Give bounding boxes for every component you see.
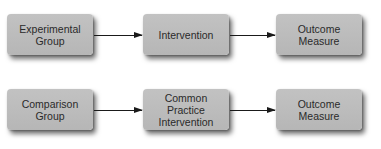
experimental-group-label: Experimental Group bbox=[19, 23, 80, 47]
intervention-box: Intervention bbox=[143, 14, 229, 55]
arrow-common-practice-to-outcome bbox=[230, 110, 275, 111]
experimental-group-box: Experimental Group bbox=[7, 14, 93, 55]
arrow-comparison-to-common-practice bbox=[94, 110, 142, 111]
common-practice-intervention-label: Common Practice Intervention bbox=[159, 92, 214, 128]
outcome-measure-box-1: Outcome Measure bbox=[276, 14, 362, 55]
outcome-measure-label-2: Outcome Measure bbox=[298, 98, 341, 122]
comparison-group-box: Comparison Group bbox=[7, 89, 93, 130]
outcome-measure-box-2: Outcome Measure bbox=[276, 89, 362, 130]
arrow-intervention-to-outcome bbox=[230, 35, 275, 36]
intervention-label: Intervention bbox=[159, 29, 214, 41]
common-practice-intervention-box: Common Practice Intervention bbox=[143, 89, 229, 130]
outcome-measure-label-1: Outcome Measure bbox=[298, 23, 341, 47]
arrow-experimental-to-intervention bbox=[94, 35, 142, 36]
comparison-group-label: Comparison Group bbox=[22, 98, 79, 122]
